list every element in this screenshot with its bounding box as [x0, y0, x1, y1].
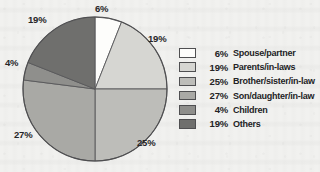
- pie-slice-percentage-label: 19%: [148, 34, 166, 44]
- legend-row: 19%Parents/in-laws: [179, 60, 320, 74]
- legend-color-swatch: [179, 77, 196, 87]
- pie-slice-percentage-label: 4%: [5, 58, 18, 68]
- pie-chart-area: 6%19%25%27%4%19%: [0, 0, 190, 172]
- pie-slice-percentage-label: 27%: [14, 130, 32, 140]
- chart-legend: 6%Spouse/partner19%Parents/in-laws25%Bro…: [179, 46, 320, 131]
- legend-percentage: 19%: [200, 118, 228, 129]
- pie-slice: [23, 80, 95, 161]
- legend-category-label: Brother/sister/in-law: [233, 76, 320, 86]
- legend-category-label: Son/daughter/in-law: [233, 91, 320, 101]
- legend-row: 27%Son/daughter/in-law: [179, 89, 320, 103]
- legend-category-label: Parents/in-laws: [233, 62, 320, 72]
- pie-slice-percentage-label: 6%: [95, 4, 108, 14]
- legend-color-swatch: [179, 48, 196, 58]
- pie-slice: [95, 89, 167, 161]
- legend-row: 6%Spouse/partner: [179, 46, 320, 60]
- legend-row: 4%Children: [179, 103, 320, 117]
- legend-color-swatch: [179, 62, 196, 72]
- legend-percentage: 25%: [200, 76, 228, 87]
- legend-color-swatch: [179, 105, 196, 115]
- pie-slice-percentage-label: 19%: [28, 15, 46, 25]
- legend-color-swatch: [179, 119, 196, 129]
- legend-percentage: 27%: [200, 90, 228, 101]
- legend-percentage: 6%: [200, 48, 228, 59]
- legend-percentage: 19%: [200, 62, 228, 73]
- legend-category-label: Others: [233, 119, 320, 129]
- legend-category-label: Children: [233, 105, 320, 115]
- legend-color-swatch: [179, 91, 196, 101]
- legend-percentage: 4%: [200, 104, 228, 115]
- pie-chart-figure: 6%19%25%27%4%19% 6%Spouse/partner19%Pare…: [0, 0, 320, 172]
- legend-category-label: Spouse/partner: [233, 48, 320, 58]
- legend-row: 25%Brother/sister/in-law: [179, 74, 320, 88]
- pie-slice-percentage-label: 25%: [137, 138, 155, 148]
- legend-row: 19%Others: [179, 117, 320, 131]
- pie-chart-svg: [0, 0, 190, 172]
